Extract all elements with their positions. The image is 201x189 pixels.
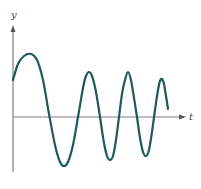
x-axis-arrow-icon	[179, 115, 186, 120]
waveform-diagram: y t	[0, 0, 201, 189]
wave-curve	[13, 54, 168, 166]
x-axis-label: t	[189, 111, 194, 122]
y-axis-label: y	[10, 9, 17, 20]
y-axis-arrow-icon	[11, 25, 16, 32]
